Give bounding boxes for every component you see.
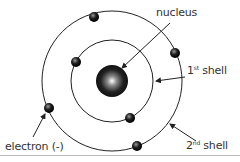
- nucleus-label: nucleus: [156, 6, 197, 19]
- nucleus: [96, 65, 128, 97]
- divider: [0, 155, 240, 156]
- electron-label: electron (-): [5, 140, 64, 153]
- shell2-word: shell: [200, 139, 228, 152]
- electron: [71, 57, 81, 67]
- electron-arrow: [33, 114, 45, 137]
- electron: [89, 12, 99, 22]
- shell1-word: shell: [199, 64, 227, 77]
- shell2-num: 2: [186, 139, 193, 152]
- atom-diagram: [0, 0, 240, 162]
- nucleus-arrow: [122, 23, 170, 68]
- shell1-label: 1st shell: [187, 64, 227, 77]
- electron: [170, 48, 180, 58]
- electron: [44, 103, 54, 113]
- shell2-label: 2nd shell: [186, 139, 228, 152]
- electron: [125, 113, 135, 123]
- shell1-arrow: [156, 77, 185, 81]
- electron: [132, 141, 142, 151]
- shell2-sup: nd: [193, 139, 200, 146]
- shell1-num: 1: [187, 64, 194, 77]
